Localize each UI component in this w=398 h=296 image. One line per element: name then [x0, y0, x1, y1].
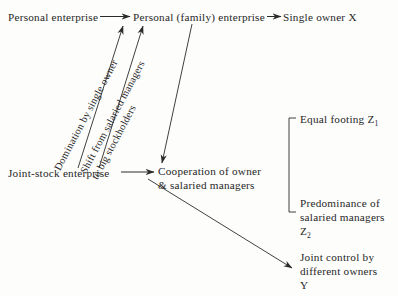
node-predominance-salaried-managers: Predominance of salaried managers Z2	[300, 196, 396, 243]
flow-diagram: Personal enterprise Personal (family) en…	[0, 0, 398, 296]
node-predominance-label: Z2	[300, 224, 396, 243]
node-equal-footing-subscript: 1	[375, 119, 379, 128]
node-cooperation-line-2: & salaried managers	[158, 178, 290, 192]
arrow-family-to-cooperation	[162, 24, 192, 163]
node-equal-footing: Equal footing Z1	[300, 112, 378, 131]
node-personal-family-enterprise: Personal (family) enterprise	[133, 10, 265, 24]
node-predominance-line-2: salaried managers	[300, 210, 396, 224]
arrow-cooperation-to-jointcontrol	[148, 179, 292, 268]
node-joint-control-different-owners: Joint control by different owners Y	[300, 250, 396, 292]
outcome-bracket	[289, 118, 296, 212]
node-joint-control-line-2: different owners	[300, 264, 396, 278]
node-cooperation-line-1: Cooperation of owner	[158, 164, 290, 178]
node-single-owner: Single owner X	[283, 10, 357, 24]
node-joint-control-line-1: Joint control by	[300, 250, 396, 264]
node-cooperation-owner-managers: Cooperation of owner & salaried managers	[158, 164, 290, 192]
node-predominance-label-subscript: 2	[307, 231, 311, 240]
node-equal-footing-text: Equal footing Z	[300, 113, 375, 125]
node-predominance-line-1: Predominance of	[300, 196, 396, 210]
node-joint-control-label: Y	[300, 278, 396, 292]
node-personal-enterprise: Personal enterprise	[8, 10, 98, 24]
